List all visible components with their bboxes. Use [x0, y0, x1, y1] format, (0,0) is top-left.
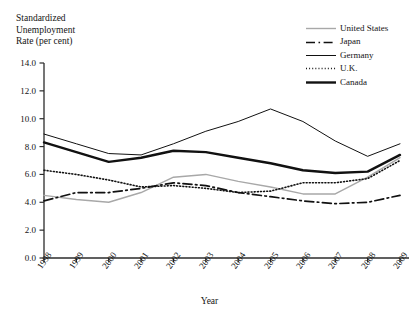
y-axis-tick-label: 8.0: [10, 142, 36, 152]
y-axis-tick-label: 4.0: [10, 197, 36, 207]
legend-line-swatch: [306, 38, 336, 47]
legend-label: U.K.: [340, 62, 358, 75]
legend-label: Germany: [340, 49, 374, 62]
y-axis-tick-label: 14.0: [10, 58, 36, 68]
chart-legend: United StatesJapanGermanyU.K.Canada: [306, 22, 388, 89]
legend-item[interactable]: Japan: [306, 35, 388, 48]
series-line: [44, 142, 400, 173]
y-axis-tick-label: 0.0: [10, 253, 36, 263]
legend-line-swatch: [306, 64, 336, 73]
legend-item[interactable]: Germany: [306, 49, 388, 62]
series-line: [44, 109, 400, 156]
series-line: [44, 183, 400, 204]
legend-label: Japan: [340, 35, 361, 48]
y-axis-tick-label: 10.0: [10, 114, 36, 124]
y-axis-tick-label: 2.0: [10, 225, 36, 235]
legend-label: Canada: [340, 76, 367, 89]
y-axis-title: Standardized Unemployment Rate (per cent…: [16, 13, 75, 48]
series-line: [44, 158, 400, 203]
y-axis-tick-label: 6.0: [10, 169, 36, 179]
legend-line-swatch: [306, 51, 336, 60]
legend-label: United States: [340, 22, 388, 35]
legend-line-swatch: [306, 24, 336, 33]
y-axis-tick-label: 12.0: [10, 86, 36, 96]
y-axis-title-line-2: Unemployment: [16, 25, 75, 37]
y-axis-title-line-1: Standardized: [16, 13, 75, 25]
y-axis-title-line-3: Rate (per cent): [16, 36, 75, 48]
x-axis-title: Year: [0, 296, 419, 308]
legend-item[interactable]: United States: [306, 22, 388, 35]
chart-container: Standardized Unemployment Rate (per cent…: [0, 0, 419, 321]
legend-item[interactable]: U.K.: [306, 62, 388, 75]
legend-line-swatch: [306, 78, 336, 87]
legend-item[interactable]: Canada: [306, 76, 388, 89]
